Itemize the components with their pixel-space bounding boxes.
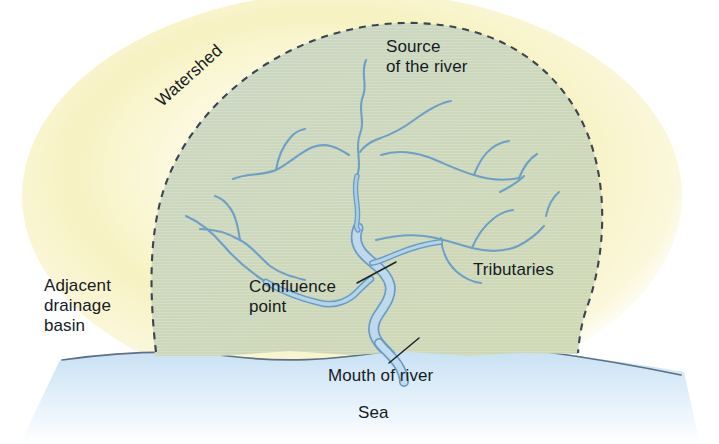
label-mouth-of-river: Mouth of river <box>328 366 433 386</box>
label-source-of-the-river: Source of the river <box>386 37 468 77</box>
label-tributaries: Tributaries <box>473 260 554 280</box>
river-basin-diagram: Watershed Source of the river Adjacent d… <box>0 0 719 444</box>
label-sea: Sea <box>358 403 389 423</box>
label-adjacent-drainage-basin: Adjacent drainage basin <box>44 276 111 336</box>
label-confluence-point: Confluence point <box>249 277 336 317</box>
